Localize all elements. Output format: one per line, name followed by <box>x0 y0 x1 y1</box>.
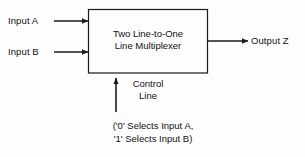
input-b-label: Input B <box>8 46 39 57</box>
diagram-caption-line2: '1' Selects Input B) <box>58 132 248 145</box>
control-line-label-line2: Line <box>122 90 174 102</box>
output-z-label: Output Z <box>251 35 289 46</box>
control-line-label-line1: Control <box>122 78 174 90</box>
input-a-label: Input A <box>8 15 38 26</box>
diagram-caption: ('0' Selects Input A, '1' Selects Input … <box>58 119 248 145</box>
multiplexer-block-label-line2: Line Multiplexer <box>89 40 207 52</box>
multiplexer-block-label: Two Line-to-One Line Multiplexer <box>89 28 207 52</box>
multiplexer-block-label-line1: Two Line-to-One <box>89 28 207 40</box>
diagram-caption-line1: ('0' Selects Input A, <box>58 119 248 132</box>
diagram-canvas: Input A Input B Output Z Two Line-to-One… <box>0 0 305 157</box>
control-line-label: Control Line <box>122 78 174 102</box>
